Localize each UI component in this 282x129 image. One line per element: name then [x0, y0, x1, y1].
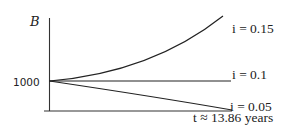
y-tick-1000: 1000: [13, 76, 40, 88]
curve-i-0-05: [50, 81, 233, 110]
curve-i-0-15: [50, 16, 224, 81]
chart: B 1000 i = 0.15 i = 0.1 i = 0.05 t ≈ 13.…: [0, 0, 282, 129]
label-i-0-1: i = 0.1: [232, 67, 267, 82]
label-i-0-15: i = 0.15: [232, 21, 274, 36]
t-annotation: t ≈ 13.86 years: [193, 110, 273, 125]
y-axis-label: B: [29, 14, 40, 29]
